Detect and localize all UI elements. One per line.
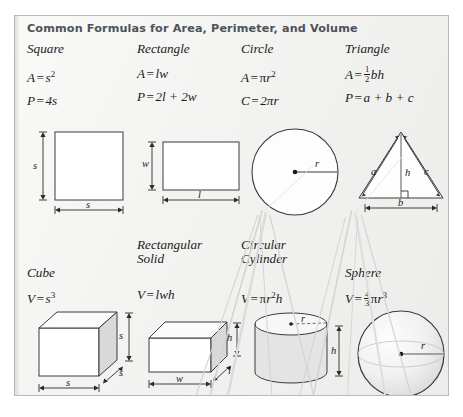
- diagram-circular-cylinder: r h: [243, 310, 355, 396]
- square-perimeter-eq: =: [35, 93, 45, 108]
- rectangular-solid-volume-lhs: V: [137, 287, 145, 302]
- sphere-volume-eq: =: [353, 291, 363, 306]
- square-label-side-left: s: [33, 161, 37, 172]
- rectangle-area-lhs: A: [137, 66, 145, 81]
- formula-reference-panel: Common Formulas for Area, Perimeter, and…: [14, 15, 449, 396]
- sphere-volume-exponent: 3: [383, 290, 388, 300]
- triangle-area-fraction: 12: [364, 65, 370, 84]
- square-label-side-bottom: s: [86, 200, 90, 211]
- diagram-cube: s s s: [31, 306, 155, 396]
- shape-name-triangle: Triangle: [345, 42, 449, 56]
- shape-name-square: Square: [27, 42, 137, 56]
- formula-sphere-volume: V=43πr3: [345, 286, 449, 308]
- square-area-exponent: 2: [51, 69, 56, 79]
- rectangle-label-length: l: [198, 190, 201, 201]
- panel-title: Common Formulas for Area, Perimeter, and…: [27, 22, 358, 35]
- formula-square-area: A=s2: [27, 65, 137, 87]
- rectangular-solid-label-width: w: [176, 374, 183, 385]
- square-figure: [33, 128, 153, 220]
- cube-label-depth: s: [119, 368, 123, 379]
- triangle-perimeter-rhs: a + b + c: [364, 90, 414, 105]
- rectangle-area-rhs: lw: [156, 66, 168, 81]
- formula-rectangular-solid-volume: V=lwh: [137, 286, 247, 304]
- cylinder-volume-eq: =: [249, 291, 259, 306]
- cell-triangle: Triangle A=12bh P=a + b + c: [345, 42, 449, 107]
- cell-sphere: Sphere V=43πr3: [345, 252, 449, 308]
- circle-circumference-lhs: C: [241, 93, 250, 108]
- diagram-circle: r: [247, 124, 357, 224]
- cylinder-label-height: h: [331, 346, 336, 357]
- cylinder-label-radius: r: [301, 314, 305, 325]
- diagram-square: s s: [33, 128, 153, 224]
- cylinder-volume-lhs: V: [241, 291, 249, 306]
- cell-cube: Cube V=s3: [27, 252, 137, 308]
- formula-circular-cylinder-volume: V=πr2h: [241, 286, 351, 308]
- cell-circle: Circle A=πr2 C=2πr: [241, 42, 351, 110]
- formula-rectangle-area: A=lw: [137, 65, 247, 83]
- rectangle-perimeter-rhs: 2l + 2w: [156, 89, 197, 104]
- triangle-perimeter-lhs: P: [345, 90, 353, 105]
- formula-triangle-perimeter: P=a + b + c: [345, 89, 449, 107]
- panel-edge-shadow: [15, 16, 20, 395]
- square-area-lhs: A: [27, 70, 35, 85]
- square-perimeter-rhs: 4s: [46, 93, 58, 108]
- triangle-label-side-c: c: [424, 167, 429, 178]
- cube-label-width: s: [66, 378, 70, 389]
- square-perimeter-lhs: P: [27, 93, 35, 108]
- cube-figure: [31, 306, 155, 396]
- circle-label-radius: r: [315, 159, 319, 170]
- sphere-figure: [351, 308, 449, 396]
- formula-square-perimeter: P=4s: [27, 92, 137, 110]
- shape-name-rectangle: Rectangle: [137, 42, 247, 56]
- shape-name-circular-cylinder: Circular Cylinder: [241, 238, 351, 280]
- triangle-area-rhs: bh: [371, 67, 384, 82]
- circle-area-exponent: 2: [271, 69, 276, 79]
- triangle-label-base: b: [398, 198, 403, 209]
- circle-circumference-rhs: 2πr: [260, 93, 278, 108]
- scanned-page: Common Formulas for Area, Perimeter, and…: [0, 0, 463, 417]
- rectangle-perimeter-lhs: P: [137, 89, 145, 104]
- sphere-volume-lhs: V: [345, 291, 353, 306]
- square-area-eq: =: [35, 70, 45, 85]
- rectangle-label-width: w: [142, 159, 149, 170]
- triangle-perimeter-eq: =: [353, 90, 363, 105]
- sphere-volume-fraction: 43: [364, 290, 370, 309]
- cell-rectangle: Rectangle A=lw P=2l + 2w: [137, 42, 247, 106]
- diagram-triangle: a c h b: [349, 126, 449, 224]
- shape-name-sphere: Sphere: [345, 252, 449, 280]
- circle-area-lhs: A: [241, 70, 249, 85]
- cube-volume-eq: =: [35, 291, 45, 306]
- triangle-area-eq: =: [353, 67, 363, 82]
- formula-rectangle-perimeter: P=2l + 2w: [137, 88, 247, 106]
- cell-circular-cylinder: Circular Cylinder V=πr2h: [241, 238, 351, 308]
- rectangle-perimeter-eq: =: [145, 89, 155, 104]
- shape-name-circle: Circle: [241, 42, 351, 56]
- cell-rectangular-solid: Rectangular Solid V=lwh: [137, 238, 247, 304]
- cylinder-figure: [243, 310, 355, 396]
- diagram-rectangle: w l: [141, 128, 261, 224]
- formula-circle-circumference: C=2πr: [241, 92, 351, 110]
- triangle-area-frac-denominator: 2: [364, 75, 370, 84]
- rectangular-solid-label-height: h: [227, 333, 232, 344]
- diagram-sphere: r: [351, 308, 449, 396]
- rectangular-solid-label-depth: l: [228, 366, 231, 377]
- shape-name-rectangular-solid: Rectangular Solid: [137, 238, 247, 280]
- formula-circle-area: A=πr2: [241, 65, 351, 87]
- circle-area-eq: =: [249, 70, 259, 85]
- rectangle-figure: [141, 128, 261, 220]
- cube-volume-lhs: V: [27, 291, 35, 306]
- rectangular-solid-volume-rhs: lwh: [156, 287, 175, 302]
- circle-circumference-eq: =: [250, 93, 260, 108]
- rectangular-solid-volume-eq: =: [145, 287, 155, 302]
- triangle-label-height: h: [405, 168, 410, 179]
- sphere-volume-frac-denominator: 3: [364, 299, 370, 308]
- circle-figure: [247, 124, 357, 220]
- sphere-label-radius: r: [421, 341, 425, 352]
- cylinder-volume-h: h: [276, 291, 283, 306]
- cube-label-height: s: [119, 331, 123, 342]
- formula-triangle-area: A=12bh: [345, 65, 449, 84]
- shape-name-cube: Cube: [27, 252, 137, 280]
- cell-square: Square A=s2 P=4s: [27, 42, 137, 110]
- triangle-area-lhs: A: [345, 67, 353, 82]
- rectangle-area-eq: =: [145, 66, 155, 81]
